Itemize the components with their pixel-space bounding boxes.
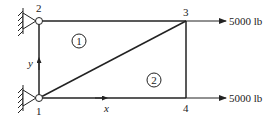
node-label-2: 2 bbox=[36, 2, 42, 14]
element-label-2: 2 bbox=[151, 74, 157, 86]
element-label-1: 1 bbox=[76, 35, 82, 47]
y-axis-label: y bbox=[27, 57, 33, 69]
node-2-pin bbox=[36, 18, 43, 25]
node-label-1: 1 bbox=[36, 105, 42, 117]
node-1-pin bbox=[36, 95, 43, 102]
node-label-3: 3 bbox=[183, 6, 189, 18]
load-label-node-4: 5000 lb bbox=[229, 92, 263, 104]
member-1-3 bbox=[39, 21, 186, 98]
wall-support-node-1 bbox=[18, 85, 36, 113]
x-axis-label: x bbox=[103, 102, 109, 114]
load-label-node-3: 5000 lb bbox=[229, 15, 263, 27]
wall-support-node-2 bbox=[18, 8, 36, 36]
truss-members bbox=[39, 21, 186, 98]
node-label-4: 4 bbox=[183, 102, 189, 114]
truss-diagram: y x 5000 lb 5000 lb 2 1 3 4 1 2 bbox=[0, 0, 278, 119]
